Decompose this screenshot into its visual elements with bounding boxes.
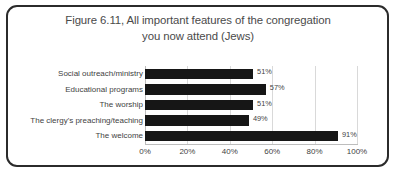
- category-axis: Social outreach/ministryEducational prog…: [12, 66, 143, 144]
- gridline: [357, 66, 358, 144]
- bar[interactable]: [145, 115, 249, 125]
- bar-value-label: 57%: [270, 83, 285, 92]
- x-tick-label: 80%: [307, 147, 323, 156]
- x-tick-label: 100%: [347, 147, 367, 156]
- bar[interactable]: [145, 100, 253, 110]
- x-tick-label: 20%: [179, 147, 195, 156]
- category-label: The worship: [12, 97, 143, 113]
- bar[interactable]: [145, 84, 266, 94]
- bar-value-label: 51%: [257, 67, 272, 76]
- category-label: The welcome: [12, 128, 143, 144]
- x-tick-label: 60%: [264, 147, 280, 156]
- figure-frame: Figure 6.11, All important features of t…: [6, 5, 389, 167]
- bar-value-label: 91%: [342, 130, 357, 139]
- x-tick-label: 40%: [222, 147, 238, 156]
- category-label: Social outreach/ministry: [12, 66, 143, 82]
- bar-value-label: 49%: [253, 114, 268, 123]
- bar-row[interactable]: 57%: [145, 82, 357, 98]
- x-tick-label: 0%: [139, 147, 151, 156]
- bar-row[interactable]: 51%: [145, 97, 357, 113]
- chart-title-line-1: Figure 6.11, All important features of t…: [22, 13, 374, 29]
- chart-title: Figure 6.11, All important features of t…: [22, 13, 374, 44]
- bar-row[interactable]: 49%: [145, 113, 357, 129]
- bar-value-label: 51%: [257, 99, 272, 108]
- x-axis-line: [145, 144, 358, 145]
- bar[interactable]: [145, 69, 253, 79]
- chart-title-line-2: you now attend (Jews): [22, 29, 374, 45]
- category-label: Educational programs: [12, 82, 143, 98]
- bar[interactable]: [145, 131, 338, 141]
- x-axis-tick-labels: 0%20%40%60%80%100%: [145, 147, 357, 161]
- bar-row[interactable]: 91%: [145, 128, 357, 144]
- bar-row[interactable]: 51%: [145, 66, 357, 82]
- category-label: The clergy's preaching/teaching: [12, 113, 143, 129]
- plot-area: 51%57%51%49%91%: [145, 66, 357, 144]
